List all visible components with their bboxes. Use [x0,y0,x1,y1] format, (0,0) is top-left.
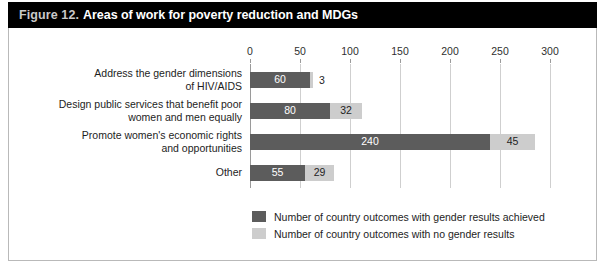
category-label: Design public services that benefit poor… [12,98,242,123]
chart-legend: Number of country outcomes with gender r… [252,208,545,242]
bar-value-label: 45 [507,136,519,147]
x-axis-tick-labels: 050100150200250300 [9,28,598,48]
figure-title-bar: Figure 12. Areas of work for poverty red… [8,2,597,28]
x-tick-label: 50 [294,45,306,57]
bar-value-label: 3 [319,75,325,86]
bar-segment-no-results: 32 [330,103,362,119]
legend-label: Number of country outcomes with gender r… [274,211,545,223]
gridline [550,64,551,188]
x-tick-mark [500,59,501,63]
x-tick-label: 200 [441,45,459,57]
x-tick-label: 250 [491,45,509,57]
x-tick-label: 0 [247,45,253,57]
x-tick-mark [350,59,351,63]
bar-value-label: 240 [361,136,379,147]
gridline [450,64,451,188]
figure-title-text: Areas of work for poverty reduction and … [83,8,358,22]
category-label: Promote women's economic rights and oppo… [12,129,242,154]
legend-swatch [252,211,266,222]
x-tick-label: 300 [541,45,559,57]
chart-plot-frame: 050100150200250300 Address the gender di… [8,28,597,261]
bar-value-label: 29 [314,167,326,178]
bar-segment-achieved: 240 [250,134,490,150]
bar-value-label: 55 [272,167,284,178]
x-tick-mark [300,59,301,63]
figure-number: Figure 12. [19,8,79,22]
bar-segment-no-results [310,72,313,88]
figure-container: Figure 12. Areas of work for poverty red… [0,0,605,270]
category-label: Other [12,166,242,179]
x-tick-label: 100 [341,45,359,57]
legend-swatch [252,228,266,239]
x-tick-mark [400,59,401,63]
gridline [350,64,351,188]
legend-item: Number of country outcomes with no gende… [252,225,545,242]
x-tick-mark [550,59,551,63]
legend-item: Number of country outcomes with gender r… [252,208,545,225]
category-label: Address the gender dimensions of HIV/AID… [12,67,242,92]
gridline [500,64,501,188]
bar-segment-achieved: 60 [250,72,310,88]
bar-segment-no-results: 29 [305,165,334,181]
legend-label: Number of country outcomes with no gende… [274,228,514,240]
x-tick-mark [450,59,451,63]
bar-segment-no-results: 45 [490,134,535,150]
x-tick-label: 150 [391,45,409,57]
bar-segment-achieved: 55 [250,165,305,181]
x-tick-mark [250,59,251,63]
gridline [400,64,401,188]
bar-value-label: 32 [340,105,352,116]
bar-segment-achieved: 80 [250,103,330,119]
bar-value-label: 60 [274,74,286,85]
bar-value-label: 80 [284,105,296,116]
